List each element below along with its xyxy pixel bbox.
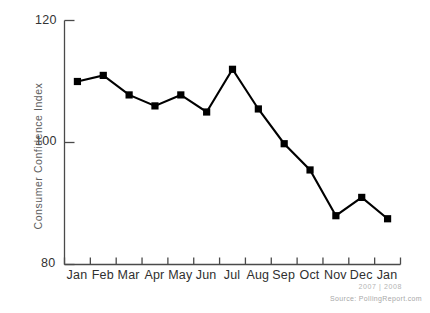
- source-attribution: Source: PollingReport.com: [330, 295, 422, 302]
- x-axis-tick-label: Oct: [297, 268, 323, 282]
- data-point-marker: [126, 91, 133, 98]
- chart-axes: [65, 21, 401, 265]
- x-axis-tick-label: Jun: [193, 268, 219, 282]
- data-point-marker: [281, 140, 288, 147]
- data-point-marker: [74, 78, 81, 85]
- data-point-marker: [151, 102, 158, 109]
- x-tick-marks: [65, 258, 401, 265]
- x-axis-tick-label: Sep: [271, 268, 297, 282]
- x-axis-tick-label: Mar: [116, 268, 142, 282]
- x-axis-tick-label: Nov: [322, 268, 348, 282]
- x-axis-tick-label: Jan: [64, 268, 90, 282]
- data-point-marker: [384, 215, 391, 222]
- x-axis-tick-label: Jan: [374, 268, 400, 282]
- data-point-marker: [203, 108, 210, 115]
- data-point-marker: [255, 105, 262, 112]
- x-axis-tick-label: May: [167, 268, 193, 282]
- y-axis-tick-label-80: 80: [41, 256, 56, 270]
- x-axis-tick-label: Dec: [348, 268, 374, 282]
- consumer-confidence-chart: 120 100 80 Consumer Confidence Index Jan…: [0, 0, 430, 313]
- data-line-series-1: [77, 69, 387, 218]
- year-span-label: 2007 | 2008: [359, 283, 402, 290]
- x-axis-tick-label: Apr: [142, 268, 168, 282]
- x-axis-tick-label: Aug: [245, 268, 271, 282]
- chart-plot-area: [0, 0, 430, 313]
- data-point-marker: [177, 91, 184, 98]
- data-point-marker: [100, 72, 107, 79]
- y-axis-title: Consumer Confidence Index: [32, 56, 44, 256]
- data-point-marker: [332, 212, 339, 219]
- y-axis-tick-label-120: 120: [35, 13, 57, 27]
- data-point-marker: [306, 166, 313, 173]
- data-point-marker: [229, 66, 236, 73]
- x-axis-tick-labels: JanFebMarAprMayJunJulAugSepOctNovDecJan: [64, 268, 400, 282]
- x-axis-tick-label: Feb: [90, 268, 116, 282]
- data-point-marker: [358, 194, 365, 201]
- x-axis-tick-label: Jul: [219, 268, 245, 282]
